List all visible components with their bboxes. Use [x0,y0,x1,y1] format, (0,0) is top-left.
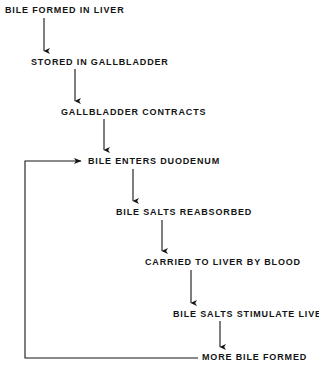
node-bile-salts-stimulate-liver: BILE SALTS STIMULATE LIVER [173,309,319,320]
node-gallbladder-contracts: GALLBLADDER CONTRACTS [61,107,206,118]
node-bile-salts-reabsorbed: BILE SALTS REABSORBED [116,207,252,218]
node-more-bile-formed: MORE BILE FORMED [202,352,307,363]
node-bile-formed-in-liver: BILE FORMED IN LIVER [5,5,125,16]
node-stored-in-gallbladder: STORED IN GALLBLADDER [31,57,169,68]
node-carried-to-liver-by-blood: CARRIED TO LIVER BY BLOOD [145,257,301,268]
node-bile-enters-duodenum: BILE ENTERS DUODENUM [88,156,220,167]
bile-circulation-flowchart: BILE FORMED IN LIVER STORED IN GALLBLADD… [0,0,319,380]
